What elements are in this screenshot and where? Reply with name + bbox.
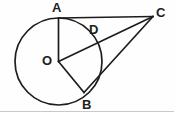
point-label-a: A <box>52 1 62 14</box>
segment-oc <box>59 17 154 62</box>
bottom-rule <box>0 111 174 112</box>
point-label-c: C <box>156 6 166 19</box>
segment-ac <box>59 17 154 19</box>
point-label-d: D <box>89 23 99 36</box>
point-label-o: O <box>42 54 52 67</box>
geometry-figure: A B C D O <box>0 0 174 113</box>
point-label-b: B <box>82 98 92 111</box>
segment-ob <box>59 62 85 93</box>
